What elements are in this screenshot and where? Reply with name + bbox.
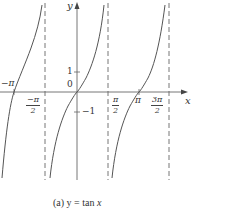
origin-label: 0 bbox=[67, 80, 73, 89]
tick-label-y-neg1: −1 bbox=[82, 107, 95, 116]
x-axis-arrow-icon bbox=[181, 90, 188, 95]
tick-label-y-1: 1 bbox=[67, 67, 73, 76]
x-axis-label: x bbox=[185, 96, 191, 106]
tick-label-pi: π bbox=[135, 96, 141, 105]
tick-label-pi-half: π 2 bbox=[112, 96, 119, 115]
tick-label-neg-pi-half-den: 2 bbox=[26, 106, 40, 115]
caption-text: (a) y = tan bbox=[53, 197, 97, 208]
tan-branch-right bbox=[112, 5, 165, 178]
tick-label-three-pi-half-num: 3π bbox=[151, 96, 163, 106]
tick-label-pi-half-num: π bbox=[112, 96, 119, 106]
tick-label-three-pi-half-den: 2 bbox=[151, 106, 163, 115]
tick-label-neg-pi-half: −π 2 bbox=[26, 96, 40, 115]
caption-variable: x bbox=[97, 197, 101, 208]
tick-label-neg-pi: −π bbox=[1, 79, 14, 88]
y-axis-arrow-icon bbox=[75, 2, 80, 9]
y-axis-label: y bbox=[67, 1, 73, 11]
tan-branch-left bbox=[2, 5, 42, 178]
tick-label-three-pi-half: 3π 2 bbox=[151, 96, 163, 115]
figure-caption: (a) y = tan x bbox=[0, 197, 228, 208]
tick-label-pi-half-den: 2 bbox=[112, 106, 119, 115]
tick-label-neg-pi-half-num: −π bbox=[26, 96, 40, 106]
